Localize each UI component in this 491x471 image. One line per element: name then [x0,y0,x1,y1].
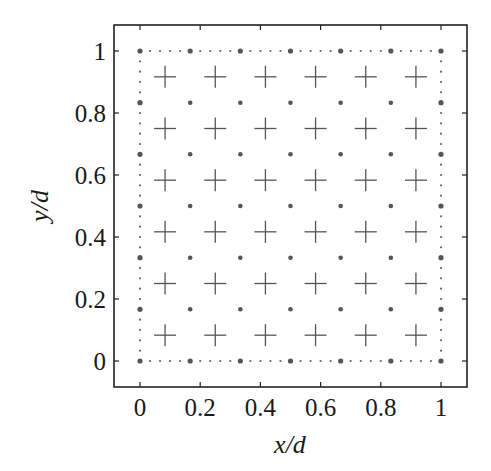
small-dot-marker [370,50,372,52]
small-dot-marker [420,360,422,362]
small-dot-marker [139,122,141,124]
small-dot-marker [320,360,322,362]
dot-marker [438,358,443,363]
small-dot-marker [350,360,352,362]
dot-marker [137,307,142,312]
x-tick-label: 1 [435,394,448,421]
small-dot-marker [440,184,442,186]
dot-marker [137,203,142,208]
y-tick-label: 0.8 [75,100,106,127]
small-dot-marker [219,50,221,52]
small-dot-marker [440,298,442,300]
dot-marker [438,203,443,208]
small-dot-marker [380,360,382,362]
small-dot-marker [139,226,141,228]
small-dot-marker [139,133,141,135]
dot-marker [288,48,293,53]
small-dot-marker [440,81,442,83]
small-dot-marker [139,195,141,197]
small-dot-marker [440,143,442,145]
small-dot-marker [370,360,372,362]
dot-marker [137,100,142,105]
small-dot-marker [350,50,352,52]
dot-marker [137,358,142,363]
dot-marker [438,48,443,53]
small-dot-marker [139,319,141,321]
dot-marker [389,255,394,260]
dot-marker [288,152,293,157]
small-dot-marker [440,226,442,228]
small-dot-marker [309,50,311,52]
small-dot-marker [179,360,181,362]
small-dot-marker [249,360,251,362]
small-dot-marker [440,174,442,176]
small-dot-marker [139,298,141,300]
dot-marker [238,255,243,260]
small-dot-marker [169,360,171,362]
dot-marker [188,48,193,53]
small-dot-marker [420,50,422,52]
small-dot-marker [139,112,141,114]
small-dot-marker [440,267,442,269]
dot-marker [389,307,394,312]
x-tick-label: 0.8 [365,394,396,421]
dot-marker [389,100,394,105]
small-dot-marker [139,164,141,166]
small-dot-marker [199,50,201,52]
dot-marker [338,358,343,363]
y-tick-label: 0 [94,348,107,375]
dot-marker [338,48,343,53]
y-tick-label: 0.6 [75,162,106,189]
dot-marker [389,204,394,209]
small-dot-marker [400,50,402,52]
dot-marker [238,100,243,105]
small-dot-marker [299,360,301,362]
small-dot-marker [440,71,442,73]
dot-marker [338,255,343,260]
dot-marker [438,255,443,260]
dot-marker [438,307,443,312]
dot-marker [188,255,193,260]
small-dot-marker [139,60,141,62]
dot-marker [288,307,293,312]
dot-marker [238,204,243,209]
small-dot-marker [149,50,151,52]
dot-marker [188,204,193,209]
dot-marker [288,358,293,363]
small-dot-marker [440,288,442,290]
small-dot-marker [209,50,211,52]
small-dot-marker [139,71,141,73]
small-dot-marker [279,50,281,52]
dot-marker [338,100,343,105]
dot-marker [288,204,293,209]
small-dot-marker [139,246,141,248]
small-dot-marker [309,360,311,362]
small-dot-marker [139,81,141,83]
y-tick-label: 0.2 [75,286,106,313]
dot-marker [238,358,243,363]
small-dot-marker [430,360,432,362]
small-dot-marker [139,174,141,176]
dot-marker [137,48,142,53]
small-dot-marker [440,329,442,331]
dot-marker [338,307,343,312]
small-dot-marker [149,360,151,362]
small-dot-marker [440,112,442,114]
small-dot-marker [139,236,141,238]
dot-marker [137,255,142,260]
small-dot-marker [400,360,402,362]
small-dot-marker [440,122,442,124]
small-dot-marker [440,319,442,321]
small-dot-marker [269,360,271,362]
dot-marker [438,100,443,105]
y-tick-label: 1 [94,38,107,65]
small-dot-marker [139,277,141,279]
small-dot-marker [440,350,442,352]
small-dot-marker [330,360,332,362]
x-tick-label: 0.6 [305,394,336,421]
small-dot-marker [139,350,141,352]
small-dot-marker [199,360,201,362]
small-dot-marker [380,50,382,52]
dot-marker [188,358,193,363]
dot-marker [137,152,142,157]
